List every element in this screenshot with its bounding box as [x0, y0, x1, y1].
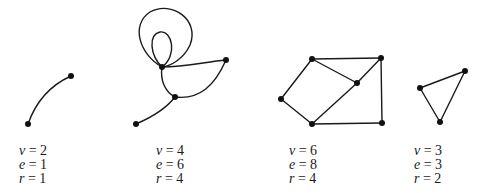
graph-3-vertex [378, 55, 384, 61]
graph-3-vertex [379, 120, 385, 126]
graphs-figure [0, 0, 481, 193]
graph-2-label-v: v = 4 [156, 144, 184, 158]
graph-2-vertex [133, 121, 139, 127]
graph-3-vertex [354, 80, 360, 86]
graph-1-label-r: r = 1 [19, 172, 46, 186]
graph-3-vertex [309, 121, 315, 127]
graph-3-label-v: v = 6 [289, 144, 317, 158]
graph-1-vertex [25, 121, 31, 127]
graph-1-vertex [68, 73, 74, 79]
graph-4-edge [420, 88, 440, 122]
graph-3-vertex [309, 56, 315, 62]
graph-4-vertex [462, 68, 468, 74]
graph-3-edge [357, 58, 381, 83]
graph-1-label-v: v = 2 [19, 144, 47, 158]
graph-4-vertex [417, 85, 423, 91]
graph-2-label-r: r = 4 [156, 172, 183, 186]
graph-3-edge [281, 59, 312, 99]
graph-4-vertex [437, 119, 443, 125]
graph-3-edge [381, 58, 382, 123]
graph-3-edge [281, 99, 312, 124]
graph-2-vertex [223, 57, 229, 63]
graph-3-edge [312, 123, 382, 124]
graph-2-vertex [159, 64, 165, 70]
graph-4 [417, 68, 468, 125]
graph-2-edge [162, 67, 175, 97]
graph-4-label-v: v = 3 [414, 144, 442, 158]
graph-3-label-e: e = 8 [289, 158, 317, 172]
graph-1 [25, 73, 74, 127]
graph-2 [133, 8, 229, 127]
graph-2-outer-loop [139, 8, 192, 67]
graph-4-label-e: e = 3 [414, 158, 442, 172]
graph-1-label-e: e = 1 [19, 158, 47, 172]
graph-2-edge [136, 97, 175, 124]
graph-2-vertex [172, 94, 178, 100]
graph-3-vertex [278, 96, 284, 102]
graph-2-label-e: e = 6 [156, 158, 184, 172]
graph-3-edge [312, 83, 357, 124]
graph-1-edge [28, 76, 71, 124]
graph-4-label-r: r = 2 [414, 172, 441, 186]
graph-3-label-r: r = 4 [289, 172, 316, 186]
graph-3-edge [312, 59, 357, 83]
graph-3 [278, 55, 385, 127]
graph-3-edge [312, 58, 381, 59]
